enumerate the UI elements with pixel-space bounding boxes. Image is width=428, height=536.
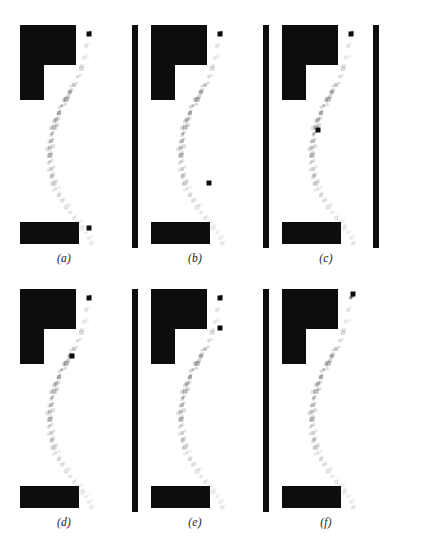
trajectory-dot — [87, 32, 90, 35]
trajectory-dot — [205, 478, 208, 481]
trajectory-dot — [49, 390, 53, 394]
l-shaped-obstacle — [20, 289, 76, 364]
trajectory-dot — [311, 167, 315, 171]
highlighted-state-marker — [218, 326, 223, 331]
trajectory-dot — [309, 162, 312, 165]
trajectory-dot — [352, 240, 356, 244]
trajectory-dot — [89, 31, 92, 34]
obstacle-notch — [44, 65, 76, 100]
trajectory-dot — [322, 368, 325, 371]
trajectory-dot — [85, 318, 89, 322]
trajectory-dot — [314, 181, 319, 186]
trajectory-dot — [54, 451, 57, 454]
left-vertical-wall — [263, 25, 269, 248]
trajectory-dot — [81, 488, 85, 492]
trajectory-dot — [183, 119, 187, 123]
trajectory-dot — [309, 426, 312, 429]
trajectory-dot — [199, 211, 202, 214]
trajectory-dot — [210, 330, 215, 335]
trajectory-dot — [180, 439, 184, 443]
trajectory-dot — [84, 44, 88, 48]
trajectory-dot — [314, 453, 317, 456]
trajectory-dot — [311, 126, 315, 130]
trajectory-dot — [310, 160, 313, 163]
trajectory-dot — [54, 382, 58, 386]
trajectory-dot — [320, 191, 323, 194]
trajectory-dot — [312, 398, 315, 401]
trajectory-dot — [185, 382, 189, 386]
trajectory-dot — [48, 153, 53, 158]
trajectory-dot — [185, 187, 188, 190]
trajectory-dot — [319, 457, 323, 461]
trajectory-dot — [218, 296, 221, 299]
trajectory-dot — [215, 495, 218, 498]
trajectory-dot — [310, 410, 314, 414]
trajectory-dot — [213, 320, 217, 324]
trajectory-dot — [347, 318, 351, 322]
trajectory-dot — [188, 375, 192, 379]
trajectory-dot — [51, 159, 54, 162]
trajectory-dot — [212, 224, 216, 228]
trajectory-dot — [57, 457, 61, 461]
trajectory-dot — [74, 214, 77, 217]
trajectory-dot — [49, 175, 53, 179]
trajectory-dot — [318, 194, 321, 197]
trajectory-dot — [57, 111, 61, 115]
trajectory-dot — [52, 119, 56, 123]
trajectory-dot — [183, 389, 188, 394]
trajectory-dot — [76, 339, 79, 342]
trajectory-dot — [342, 64, 346, 68]
trajectory-dot — [177, 432, 180, 435]
trajectory-dot — [320, 370, 323, 373]
trajectory-dot — [51, 423, 54, 426]
trajectory-dot — [317, 123, 321, 127]
trajectory-dot — [183, 181, 188, 186]
panel-c: (c) — [262, 8, 390, 276]
trajectory-dot — [70, 474, 73, 477]
scene-stage — [131, 8, 259, 252]
trajectory-dot — [180, 167, 184, 171]
trajectory-dot — [181, 446, 185, 450]
trajectory-dot — [211, 226, 216, 231]
l-shaped-obstacle — [151, 289, 207, 364]
trajectory-dot — [51, 144, 55, 148]
trajectory-dot — [51, 436, 55, 440]
highlighted-state-marker — [87, 226, 92, 231]
trajectory-dot — [314, 445, 319, 450]
l-shaped-obstacle — [151, 25, 207, 100]
trajectory-dot — [312, 438, 316, 442]
trajectory-dot — [189, 106, 192, 109]
trajectory-dot — [182, 401, 185, 404]
trajectory-dot — [349, 494, 352, 497]
trajectory-dot — [186, 387, 190, 391]
trajectory-dot — [318, 112, 321, 115]
trajectory-dot — [314, 119, 318, 123]
trajectory-dot — [178, 418, 182, 422]
trajectory-dot — [80, 64, 84, 68]
trajectory-dot — [316, 187, 319, 190]
trajectory-dot — [338, 75, 341, 78]
trajectory-dot — [58, 186, 61, 189]
trajectory-dot — [60, 368, 63, 371]
trajectory-dot — [48, 410, 52, 414]
trajectory-dot — [187, 458, 190, 461]
trajectory-dot — [179, 417, 184, 422]
trajectory-dot — [178, 404, 181, 407]
scene-stage — [131, 272, 259, 516]
trajectory-dot — [179, 424, 182, 427]
trajectory-dot — [195, 205, 200, 210]
trajectory-dot — [332, 210, 335, 213]
trajectory-dot — [322, 199, 326, 203]
trajectory-dot — [58, 373, 61, 376]
trajectory-dot — [220, 506, 224, 510]
trajectory-dot — [82, 56, 86, 60]
trajectory-dot — [80, 226, 85, 231]
trajectory-dot — [85, 54, 89, 58]
trajectory-dot — [52, 189, 55, 192]
trajectory-dot — [322, 104, 325, 107]
trajectory-dot — [314, 131, 317, 134]
left-vertical-wall — [263, 289, 269, 512]
trajectory-dot — [186, 123, 190, 127]
trajectory-dot — [347, 54, 351, 58]
trajectory-dot — [72, 216, 76, 220]
